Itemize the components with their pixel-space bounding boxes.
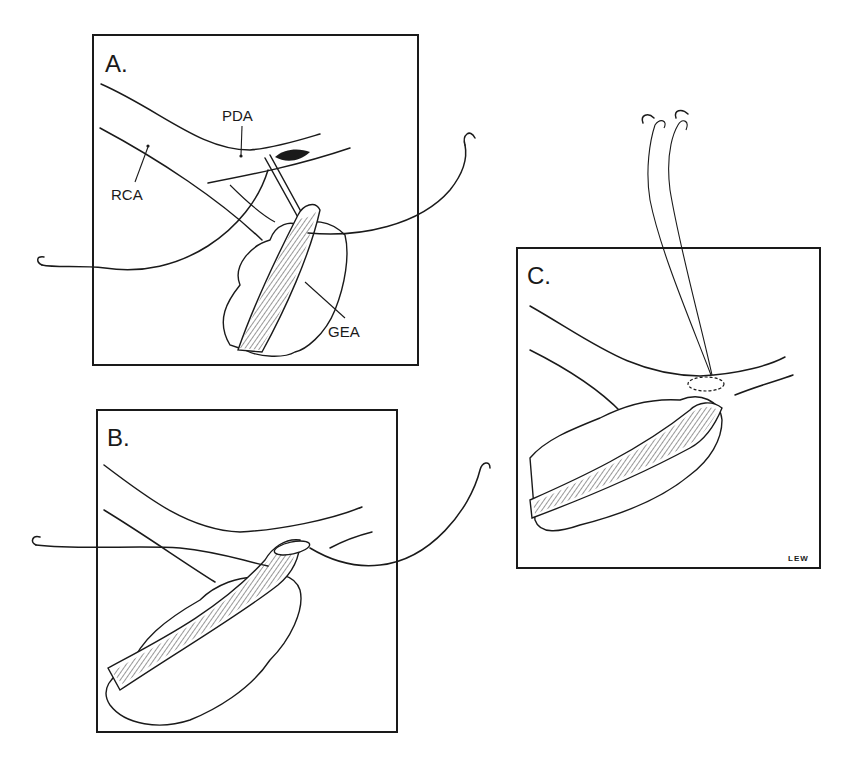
panel-a-label: A. [105, 50, 128, 77]
needle-c-2 [675, 111, 688, 118]
needle-left-a [38, 257, 44, 265]
gea-label: GEA [328, 323, 360, 340]
panel-c: C. LEW [517, 111, 820, 568]
panel-c-label: C. [527, 262, 551, 289]
artist-signature: LEW [788, 554, 809, 563]
needle-left-b [33, 537, 40, 545]
surgical-illustration: A. PDA RCA GEA B. C. [0, 0, 850, 760]
completed-anastomosis [688, 377, 724, 391]
pda-leader-dot [239, 154, 242, 157]
panel-b: B. [33, 410, 490, 732]
panel-a: A. PDA RCA GEA [38, 35, 475, 365]
needle-right-a [464, 133, 475, 145]
panel-b-label: B. [107, 424, 130, 451]
pda-label: PDA [222, 107, 253, 124]
rca-leader-dot [146, 144, 149, 147]
needle-c-1 [642, 115, 654, 123]
rca-label: RCA [111, 186, 143, 203]
